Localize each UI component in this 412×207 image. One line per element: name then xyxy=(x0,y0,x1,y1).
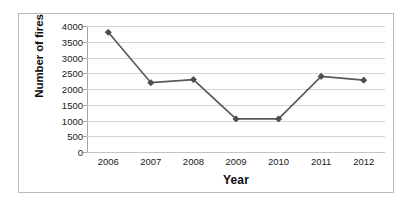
y-axis-tick-label: 3000 xyxy=(47,53,83,62)
x-axis-tick-label: 2007 xyxy=(131,156,171,167)
y-axis-tick-label: 1500 xyxy=(47,100,83,109)
gridline xyxy=(87,152,385,153)
x-axis-tick-label: 2009 xyxy=(216,156,256,167)
y-axis-tick-label: 1000 xyxy=(47,116,83,125)
x-axis-tick-label: 2012 xyxy=(344,156,384,167)
line-series xyxy=(87,26,385,152)
y-axis-tick-label: 2500 xyxy=(47,69,83,78)
x-axis-tick-label: 2008 xyxy=(173,156,213,167)
data-point-marker xyxy=(361,77,367,83)
y-axis-tick-label: 4000 xyxy=(47,22,83,31)
y-axis-tick-label: 500 xyxy=(47,132,83,141)
x-axis-tick-label: 2010 xyxy=(259,156,299,167)
x-axis-tick-label: 2011 xyxy=(301,156,341,167)
x-axis-title: Year xyxy=(87,173,385,187)
x-axis-tick-label: 2006 xyxy=(88,156,128,167)
x-axis-tick-labels: 2006200720082009201020112012 xyxy=(87,156,385,170)
y-axis-tick-label: 2000 xyxy=(47,85,83,94)
plot-area xyxy=(87,26,385,152)
y-axis-tick-label: 3500 xyxy=(47,37,83,46)
chart-figure: Number of fires 050010001500200025003000… xyxy=(18,13,394,193)
y-axis-tick-label: 0 xyxy=(47,148,83,157)
y-axis-tick-labels: 05001000150020002500300035004000 xyxy=(47,21,83,151)
series-line xyxy=(108,32,363,119)
